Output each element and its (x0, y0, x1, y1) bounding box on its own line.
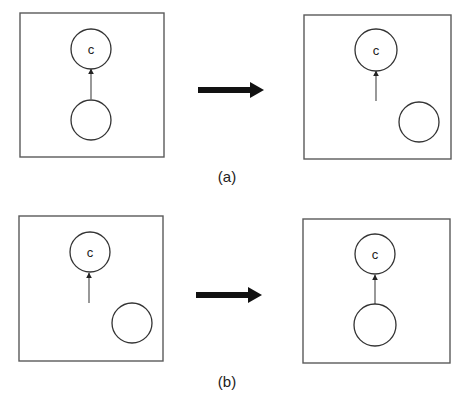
panel-b-after: c (303, 219, 450, 363)
node-label: c (373, 43, 380, 58)
node-c: c (355, 29, 397, 71)
node-circle (112, 303, 152, 343)
node-label: c (372, 247, 379, 262)
figure-row-b: cc(b) (19, 216, 450, 390)
node-c: c (70, 232, 110, 272)
figure-row-a: cc(a) (20, 13, 451, 185)
diagram-canvas: cc(a)cc(b) (0, 0, 466, 401)
node-label: c (87, 245, 94, 260)
node-circle (71, 100, 111, 140)
transition-arrow-icon (196, 287, 262, 303)
node-unlabeled (399, 102, 439, 142)
node-label: c (88, 42, 95, 57)
panel-b-before: c (19, 216, 163, 361)
node-unlabeled (354, 304, 396, 346)
transition-arrow-icon (198, 82, 264, 98)
node-unlabeled (112, 303, 152, 343)
caption-b: (b) (218, 373, 236, 390)
caption-a: (a) (218, 168, 236, 185)
node-circle (399, 102, 439, 142)
node-c: c (71, 29, 111, 69)
node-circle (354, 304, 396, 346)
node-c: c (355, 234, 395, 274)
panel-a-after: c (304, 15, 451, 159)
panel-a-before: c (20, 13, 164, 157)
node-unlabeled (71, 100, 111, 140)
